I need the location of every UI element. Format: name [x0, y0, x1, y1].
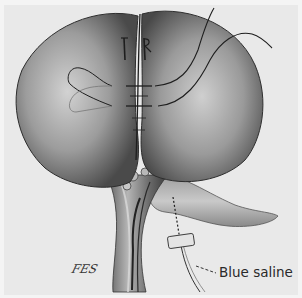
label-leader-line — [196, 266, 216, 273]
artist-signature: FES — [70, 262, 99, 276]
illustration-canvas: FES Blue saline — [0, 0, 302, 298]
organ-left-lobe — [16, 13, 138, 187]
surgical-drawing — [0, 0, 302, 298]
tail-structure — [148, 175, 278, 226]
blue-saline-label: Blue saline — [219, 264, 293, 280]
